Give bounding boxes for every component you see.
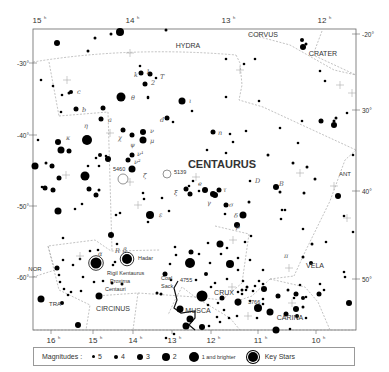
star-dot [55,139,61,145]
star-dot [258,100,261,103]
star-dot [225,96,228,99]
ra-unit: h [218,335,220,340]
constellation-label: CIRCINUS [96,305,130,312]
star-dot [94,193,99,198]
star-dot [317,292,322,297]
star-designation: η [84,122,88,130]
star-dot [74,107,79,112]
star-dot [262,283,265,286]
star-designation: 1 [146,68,150,76]
star-dot [101,106,106,111]
star-dot [219,321,222,324]
constellation-label: MUSCA [185,307,211,314]
star-dot [262,269,265,272]
star-designation: B [278,180,284,188]
star-dot [179,98,186,105]
named-star-label: Coal [161,275,172,281]
star-dot [228,317,231,320]
star-dot [335,117,338,120]
star-dot [161,197,164,200]
ra-unit: h [58,335,60,340]
star-dot [55,208,62,215]
star-dot [197,291,208,302]
star-dot [116,243,119,246]
grid-cross [285,264,293,272]
star-dot [229,133,232,136]
star-designation: σ [229,201,234,209]
constellation-label: CRATER [309,50,337,57]
grid-cross [134,201,142,209]
star-dot [82,135,92,145]
star-dot [177,306,184,313]
star-designation: π [283,252,289,260]
star-dot [95,157,98,160]
star-dot [51,188,56,193]
star-dot [319,70,322,73]
star-dot [110,33,113,36]
star-dot [224,203,229,208]
star-dot [139,65,142,68]
grid-cross [62,171,70,179]
legend-key-label: Key Stars [265,353,295,360]
star-dot [250,235,253,238]
star-dot [237,269,240,272]
star-dot [314,178,317,181]
ra-tick-label: 13 [168,336,177,345]
star-dot [142,192,145,195]
legend-items: 54321 and brighter [92,352,248,362]
star-dot [140,129,146,135]
ra-tick-label: 13 [222,16,231,25]
star-dot [105,155,108,158]
boundary-line [33,52,236,62]
star-dot [140,137,147,144]
boundary-line [48,246,90,330]
magnitude-label: 5 [98,353,102,360]
star-dot [225,58,228,61]
dec-tick-label: -40° [17,132,29,139]
star-dot [346,112,349,115]
star-dot [55,266,60,271]
named-star-label: Centauri [105,286,126,292]
grid-cross [244,312,252,320]
star-designation: ξ [174,189,178,197]
star-designation: ζ [143,172,147,180]
ra-unit: h [179,335,181,340]
star-dot [346,300,352,306]
magnitude-label: 1 and brighter [202,354,236,360]
star-dot [184,187,189,192]
star-dot [57,176,62,181]
star-designation: b [82,106,86,114]
star-dot [279,127,282,130]
star-dot [256,317,259,320]
star-designation: R [114,247,120,255]
star-dot [75,322,81,328]
star-dot [240,212,247,219]
ra-unit: h [44,15,46,20]
star-dot [273,327,280,334]
star-designation: ν [150,127,154,135]
constellation-label: CRUX [214,289,234,296]
star-dot [343,271,346,274]
star-dot [299,284,302,287]
legend-magnitude-item: 2 [162,353,177,361]
star-dot [226,278,229,281]
star-designation: μ [150,137,154,145]
star-dot [94,37,97,40]
star-designation: α [98,250,103,258]
star-designation: d [160,116,164,124]
star-dot [147,221,150,224]
star-dot [216,316,219,319]
star-dot [212,192,218,198]
star-dot [126,158,131,163]
grid-cross [348,89,356,97]
star-dot [258,280,261,283]
legend-magnitude-item: 3 [137,353,150,360]
star-designation: T [160,73,165,81]
ra-tick-label: 12 [207,336,216,345]
star-dot [249,180,252,183]
star-designation: ι [189,97,192,105]
star-dot [226,247,229,250]
star-dot [325,241,328,244]
star-dot [98,189,101,192]
star-dot [335,193,341,199]
